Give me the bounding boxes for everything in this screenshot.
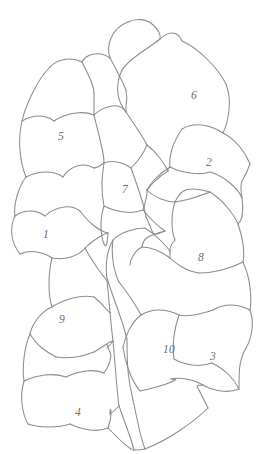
- region-label-4: 4: [75, 407, 81, 419]
- outline-stroke: [22, 116, 54, 121]
- outline-stroke: [147, 190, 175, 202]
- outline-stroke: [94, 297, 110, 313]
- outline-stroke: [56, 352, 94, 358]
- outline-stroke: [128, 20, 182, 41]
- outline-stroke: [15, 177, 26, 216]
- outline-stroke: [239, 348, 246, 389]
- outline-stroke: [243, 262, 251, 310]
- outline-stroke: [104, 233, 108, 246]
- outline-stroke: [203, 385, 239, 391]
- outline-stroke: [238, 224, 244, 262]
- outline-stroke: [134, 449, 145, 450]
- outline-stroke: [119, 406, 134, 450]
- outline-stroke: [130, 247, 142, 265]
- outline-stroke: [147, 145, 168, 171]
- region-label-2: 2: [206, 157, 212, 169]
- outline-stroke: [54, 113, 94, 121]
- outline-stroke: [210, 192, 238, 224]
- outline-stroke: [170, 129, 182, 167]
- outline-stroke: [246, 310, 252, 348]
- outline-stroke: [170, 258, 199, 273]
- outline-stroke: [241, 164, 250, 198]
- outline-stroke: [142, 247, 170, 258]
- outline-stroke: [199, 262, 243, 273]
- outline-stroke: [112, 240, 119, 282]
- outline-stroke: [80, 211, 108, 233]
- outline-stroke: [101, 206, 104, 244]
- outline-stroke: [119, 282, 141, 315]
- outline-stroke: [63, 165, 94, 177]
- region-label-7: 7: [122, 184, 128, 196]
- outline-stroke: [30, 307, 52, 334]
- outline-stroke: [94, 163, 104, 168]
- outline-stroke: [82, 62, 94, 93]
- outline-stroke: [213, 305, 250, 310]
- line-drawing-figure: 12345678910: [0, 0, 262, 454]
- outline-stroke: [175, 189, 210, 202]
- outline-stroke: [131, 168, 146, 217]
- outline-stroke: [133, 400, 145, 449]
- outline-stroke: [20, 121, 26, 177]
- outline-stroke: [30, 334, 56, 357]
- outline-stroke: [70, 424, 108, 430]
- outline-stroke: [127, 339, 133, 400]
- outline-stroke: [131, 145, 147, 168]
- region-label-10: 10: [163, 344, 175, 356]
- outline-stroke: [26, 172, 63, 177]
- outline-stroke: [170, 167, 210, 174]
- outline-stroke: [143, 210, 165, 231]
- region-label-1: 1: [43, 229, 49, 241]
- outline-stroke: [140, 379, 176, 391]
- outline-stroke: [94, 106, 126, 115]
- outline-stroke: [126, 112, 147, 145]
- outline-stroke: [15, 211, 45, 216]
- outline-stroke: [122, 39, 160, 70]
- outline-stroke: [123, 315, 141, 347]
- outline-stroke: [113, 341, 119, 406]
- region-label-8: 8: [198, 252, 204, 264]
- outline-stroke: [12, 216, 20, 254]
- outline-stroke: [85, 248, 107, 281]
- outline-stroke: [104, 352, 111, 373]
- outline-stroke: [20, 252, 52, 258]
- outline-stroke: [141, 310, 179, 315]
- outline-stroke: [182, 125, 223, 133]
- outline-stroke: [113, 228, 145, 240]
- outline-stroke: [82, 54, 110, 62]
- outline-stroke: [22, 381, 28, 424]
- outline-stroke: [24, 375, 66, 381]
- outline-stroke: [108, 409, 111, 428]
- outline-stroke: [223, 133, 250, 164]
- outline-stroke: [126, 90, 127, 112]
- outline-stroke: [197, 385, 208, 408]
- outline-stroke: [212, 363, 239, 389]
- outline-stroke: [85, 233, 108, 248]
- outline-stroke: [50, 59, 82, 67]
- outline-stroke: [52, 296, 94, 307]
- region-label-9: 9: [59, 314, 65, 326]
- outline-stroke: [210, 172, 242, 198]
- outline-stroke: [104, 162, 131, 168]
- outline-stroke: [45, 207, 80, 216]
- outline-stroke: [147, 171, 168, 190]
- outline-stroke: [170, 240, 175, 258]
- outline-stroke: [52, 248, 85, 259]
- outline-stroke: [94, 341, 113, 352]
- outline-stroke: [109, 22, 128, 58]
- outline-stroke: [179, 310, 213, 316]
- outline-stroke: [23, 334, 30, 381]
- outline-stroke: [104, 206, 143, 212]
- region-outline-artwork: [0, 0, 262, 454]
- outline-stroke: [28, 424, 70, 427]
- outline-stroke: [49, 258, 52, 307]
- outline-stroke: [182, 41, 226, 84]
- outline-stroke: [123, 347, 140, 391]
- outline-stroke: [22, 67, 50, 121]
- outline-stroke: [238, 198, 243, 224]
- outline-stroke: [145, 408, 208, 449]
- outline-stroke: [172, 202, 175, 240]
- region-label-5: 5: [58, 131, 64, 143]
- outline-stroke: [94, 115, 104, 163]
- region-label-3: 3: [210, 351, 216, 363]
- region-label-6: 6: [191, 90, 197, 102]
